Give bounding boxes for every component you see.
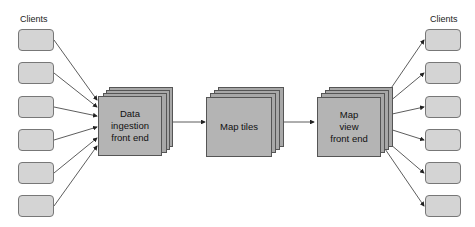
right-client-1 — [425, 29, 461, 51]
left-client-5 — [18, 162, 54, 184]
left-clients-label: Clients — [20, 14, 48, 24]
left-client-3 — [18, 96, 54, 118]
right-client-2 — [425, 62, 461, 84]
left-client-6 — [18, 195, 54, 217]
left-client-2 — [18, 62, 54, 84]
right-clients-label: Clients — [430, 14, 458, 24]
right-client-3 — [425, 96, 461, 118]
map-view-node-label: Map view front end — [317, 97, 381, 157]
map-tiles-node-label: Map tiles — [206, 97, 272, 157]
left-client-4 — [18, 129, 54, 151]
left-client-1 — [18, 29, 54, 51]
ingestion-node-label: Data ingestion front end — [98, 96, 162, 156]
right-client-6 — [425, 195, 461, 217]
right-client-4 — [425, 129, 461, 151]
right-client-5 — [425, 162, 461, 184]
